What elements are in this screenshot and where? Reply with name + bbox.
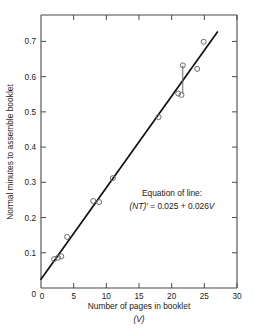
y-tick-label-0: 0 xyxy=(31,290,36,299)
x-tick-label-25: 25 xyxy=(200,292,210,301)
equation-annotation-title: Equation of line: xyxy=(142,188,202,198)
x-tick-label-30: 30 xyxy=(232,292,242,301)
chart-figure: 00.10.20.30.40.50.60.7 051015202530 Norm… xyxy=(0,0,254,331)
y-tick-label-0.6: 0.6 xyxy=(25,73,37,82)
x-tick-label-15: 15 xyxy=(134,292,144,301)
chart-background xyxy=(0,0,254,331)
x-axis-variable-label: (V) xyxy=(133,314,144,324)
y-axis-title: Normal minutes to assemble booklet xyxy=(5,84,15,220)
x-axis-title: Number of pages in booklet xyxy=(88,301,191,311)
y-tick-label-0.5: 0.5 xyxy=(25,108,37,117)
x-tick-label-0: 0 xyxy=(40,292,45,301)
equation-annotation-body: (NT)′ = 0.025 + 0.026V xyxy=(130,201,216,211)
y-tick-label-0.3: 0.3 xyxy=(25,178,37,187)
y-tick-label-0.2: 0.2 xyxy=(25,214,37,223)
scatter-plot: 00.10.20.30.40.50.60.7 051015202530 Norm… xyxy=(0,0,254,331)
y-tick-label-0.7: 0.7 xyxy=(25,37,37,46)
y-tick-label-0.4: 0.4 xyxy=(25,143,37,152)
x-tick-label-5: 5 xyxy=(71,292,76,301)
x-tick-label-10: 10 xyxy=(102,292,112,301)
x-tick-label-20: 20 xyxy=(167,292,177,301)
y-tick-label-0.1: 0.1 xyxy=(25,249,37,258)
